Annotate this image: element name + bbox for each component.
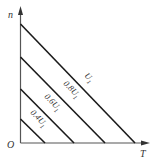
line-0.8u1 [21,57,106,143]
y-axis-label: n [8,9,13,20]
label-0.4u1: 0.4U1 [27,107,49,129]
line-u1 [21,24,136,143]
x-axis-arrow-icon [141,141,150,146]
label-u1: U1 [81,70,96,85]
y-axis-arrow-icon [18,6,23,15]
label-0.6u1: 0.6U1 [41,91,63,113]
n-t-characteristic-diagram: n T O U1 0.8U1 0.6U1 0.4U1 [0,0,161,165]
label-0.8u1: 0.8U1 [60,78,82,100]
x-axis-label: T [140,148,147,159]
origin-label: O [7,139,14,150]
